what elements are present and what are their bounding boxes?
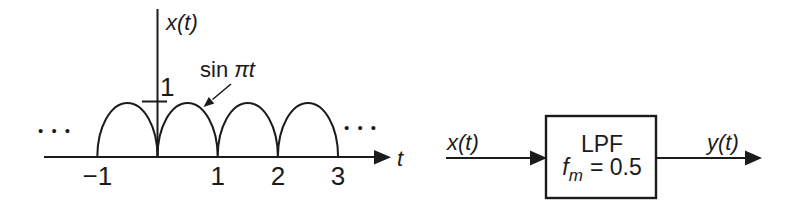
curve-annotation-math: πt (234, 57, 256, 82)
x-tick-labels: −1123 (82, 161, 345, 191)
t-axis-arrowhead-icon (374, 150, 391, 165)
input-arrowhead-icon (530, 151, 547, 166)
figure-svg: 1 x(t) t −1123 sinπt • • • • • • x(t) LP… (0, 0, 798, 212)
output-arrowhead-icon (745, 151, 762, 166)
ellipsis-right-icon: • • • (344, 119, 378, 136)
curve-annotation: sinπt (200, 57, 256, 82)
output-signal-label: y(t) (705, 130, 739, 155)
signal-curve (97, 103, 338, 157)
x-axis-label: t (397, 146, 404, 171)
lpf-block-diagram: x(t) LPF fm= 0.5 y(t) (446, 116, 762, 198)
ellipsis-left-icon: • • • (38, 122, 72, 139)
y-axis-label: x(t) (165, 10, 198, 35)
lpf-cutoff-param: fm= 0.5 (562, 154, 641, 185)
cutoff-value: = 0.5 (590, 154, 642, 180)
figure-canvas: 1 x(t) t −1123 sinπt • • • • • • x(t) LP… (0, 0, 798, 212)
x-tick-label: 1 (210, 161, 224, 191)
input-signal-label: x(t) (446, 130, 479, 155)
annotation-arrow-line (213, 84, 232, 100)
x-tick-label: −1 (82, 161, 112, 191)
curve-annotation-word: sin (200, 57, 228, 82)
y-tick-label: 1 (160, 72, 174, 102)
x-tick-label: 3 (331, 161, 345, 191)
signal-graph: 1 x(t) t −1123 sinπt • • • • • • (38, 9, 404, 191)
x-tick-label: 2 (271, 161, 285, 191)
cutoff-subscript: m (569, 166, 583, 185)
